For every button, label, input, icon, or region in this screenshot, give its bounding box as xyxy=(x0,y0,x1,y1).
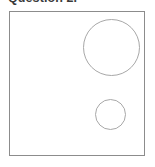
question-heading: Question 2. xyxy=(8,0,77,5)
figure-frame xyxy=(9,11,145,156)
question-heading-container: Question 2. xyxy=(0,0,155,5)
page-root: Question 2. xyxy=(0,0,155,167)
large-circle-shape xyxy=(83,19,140,76)
small-circle-shape xyxy=(95,99,126,130)
